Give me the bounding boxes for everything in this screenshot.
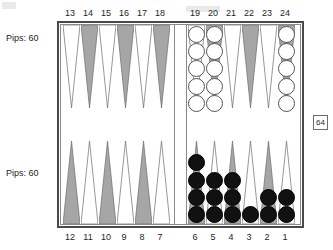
black-checker[interactable] (260, 206, 277, 223)
point-13[interactable] (63, 25, 80, 108)
pips-label-top: Pips: 60 (6, 33, 39, 43)
doubling-cube[interactable]: 64 (313, 115, 328, 130)
bar-left-edge (174, 25, 175, 224)
black-checker[interactable] (224, 172, 241, 189)
point-12[interactable] (63, 141, 80, 224)
top-point-number-row: 131415161718192021222324 (0, 6, 333, 20)
board-playfield (60, 24, 301, 225)
backgammon-board: 131415161718192021222324 121110987654321… (0, 0, 333, 250)
pips-label-bottom: Pips: 60 (6, 168, 39, 178)
white-checker[interactable] (278, 26, 295, 43)
point-17[interactable] (135, 25, 152, 108)
point-number-14: 14 (79, 6, 97, 20)
point-number-1: 1 (276, 230, 294, 244)
point-number-9: 9 (115, 230, 133, 244)
bar-right-edge (186, 25, 187, 224)
point-number-6: 6 (186, 230, 204, 244)
black-checker[interactable] (242, 206, 259, 223)
point-15[interactable] (99, 25, 116, 108)
point-number-8: 8 (133, 230, 151, 244)
white-checker[interactable] (278, 78, 295, 95)
white-checker[interactable] (278, 95, 295, 112)
board-frame (57, 21, 304, 228)
point-16[interactable] (117, 25, 134, 108)
black-checker[interactable] (206, 206, 223, 223)
point-number-7: 7 (151, 230, 169, 244)
point-number-19: 19 (186, 6, 204, 20)
black-checker[interactable] (224, 189, 241, 206)
point-number-17: 17 (133, 6, 151, 20)
white-checker[interactable] (188, 95, 205, 112)
point-number-15: 15 (97, 6, 115, 20)
point-number-4: 4 (222, 230, 240, 244)
point-21[interactable] (224, 25, 241, 108)
point-22[interactable] (242, 25, 259, 108)
bottom-point-number-row: 121110987654321 (0, 230, 333, 244)
black-checker[interactable] (206, 189, 223, 206)
point-18[interactable] (153, 25, 170, 108)
point-11[interactable] (81, 141, 98, 224)
point-9[interactable] (117, 141, 134, 224)
black-checker[interactable] (206, 172, 223, 189)
point-number-10: 10 (97, 230, 115, 244)
point-number-16: 16 (115, 6, 133, 20)
point-number-5: 5 (204, 230, 222, 244)
white-checker[interactable] (188, 26, 205, 43)
point-7[interactable] (153, 141, 170, 224)
point-number-2: 2 (258, 230, 276, 244)
white-checker[interactable] (206, 26, 223, 43)
point-number-22: 22 (240, 6, 258, 20)
point-23[interactable] (260, 25, 277, 108)
point-number-21: 21 (222, 6, 240, 20)
black-checker[interactable] (260, 189, 277, 206)
black-checker[interactable] (188, 189, 205, 206)
point-14[interactable] (81, 25, 98, 108)
point-number-24: 24 (276, 6, 294, 20)
black-checker[interactable] (224, 206, 241, 223)
point-number-18: 18 (151, 6, 169, 20)
point-number-20: 20 (204, 6, 222, 20)
white-checker[interactable] (206, 78, 223, 95)
white-checker[interactable] (206, 95, 223, 112)
black-checker[interactable] (188, 172, 205, 189)
point-number-11: 11 (79, 230, 97, 244)
white-checker[interactable] (188, 78, 205, 95)
point-10[interactable] (99, 141, 116, 224)
point-number-13: 13 (61, 6, 79, 20)
black-checker[interactable] (278, 206, 295, 223)
point-number-12: 12 (61, 230, 79, 244)
black-checker[interactable] (188, 206, 205, 223)
black-checker[interactable] (278, 189, 295, 206)
point-number-23: 23 (258, 6, 276, 20)
point-number-3: 3 (240, 230, 258, 244)
point-8[interactable] (135, 141, 152, 224)
